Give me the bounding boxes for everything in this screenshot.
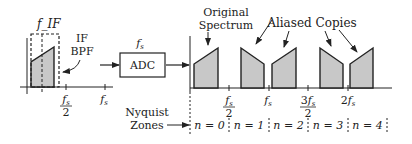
- zone-label-1: n = 1: [234, 119, 264, 132]
- nyquist-label-line1: Nyquist: [125, 106, 169, 119]
- aliased-copy-3: [320, 48, 343, 88]
- aliased-arrow-1: [256, 20, 272, 44]
- adc-block: ADC fs: [100, 37, 189, 77]
- if-label: IF: [76, 32, 88, 45]
- aliased-arrow-2: [284, 31, 289, 47]
- zone-label-0: n = 0: [194, 119, 224, 132]
- bpf-pointer-arrow: [63, 60, 80, 72]
- aliased-copy-2: [272, 48, 296, 88]
- tick-label-fs-half: fs: [224, 94, 233, 108]
- zone-label-2: n = 2: [273, 119, 303, 132]
- nyquist-label-line2: Zones: [130, 119, 164, 132]
- original-label-line1: Original: [203, 6, 249, 19]
- tick-label-fs-left: fs: [99, 93, 108, 107]
- tick-den-left: 2: [63, 106, 70, 119]
- original-spectrum: [194, 48, 218, 88]
- aliased-arrow-3: [325, 31, 331, 46]
- aliased-copy-1: [241, 48, 264, 88]
- aliased-copy-4: [350, 48, 373, 88]
- sampled-spectrum-plot: Original Spectrum Aliased Copies fs 2 fs…: [190, 6, 392, 120]
- tick-label-2fs: 2fs: [341, 94, 356, 108]
- adc-label: ADC: [129, 59, 155, 72]
- nyquist-diagram: f_IF IF BPF fs 2 fs ADC fs Original Spec…: [0, 0, 412, 144]
- aliased-copies-label: Aliased Copies: [266, 16, 356, 30]
- tick-label-3fs-half: 3fs: [301, 94, 316, 108]
- zone-label-4: n = 4: [352, 119, 382, 132]
- tick-label-fs: fs: [263, 94, 272, 108]
- adc-clock-label: fs: [135, 37, 144, 51]
- aliased-arrow-4: [339, 30, 357, 52]
- bpf-label: BPF: [70, 45, 93, 58]
- zone-label-3: n = 3: [313, 119, 343, 132]
- original-label-line2: Spectrum: [199, 19, 254, 32]
- tick-label-fs-half-left: fs: [61, 93, 70, 107]
- f-if-label: f_IF: [36, 17, 61, 31]
- if-bpf-spectrum-plot: f_IF IF BPF fs 2 fs: [20, 17, 113, 119]
